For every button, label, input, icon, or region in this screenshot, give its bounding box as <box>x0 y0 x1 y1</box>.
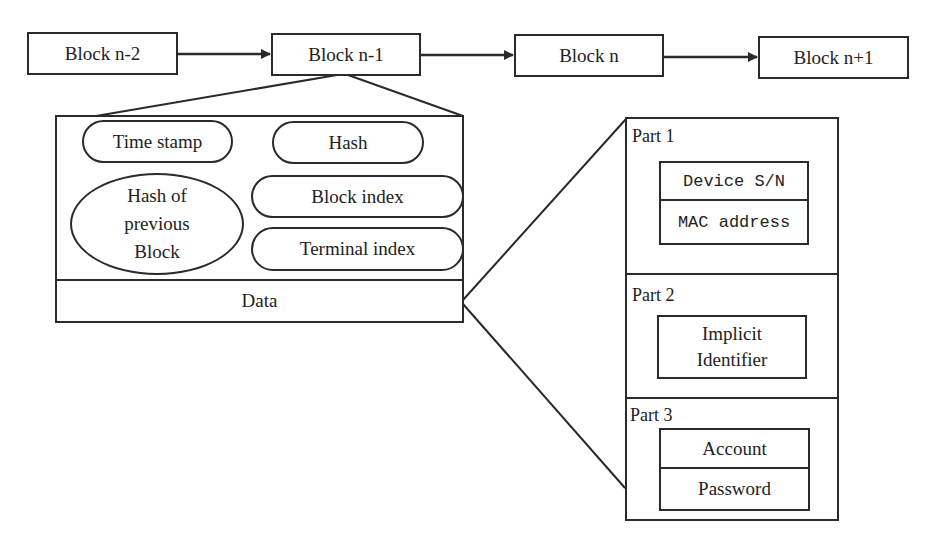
block-n-plus-1: Block n+1 <box>758 36 909 79</box>
data-section: Data <box>57 281 462 321</box>
field-label: Terminal index <box>300 238 415 260</box>
block-n-minus-2: Block n-2 <box>27 32 178 75</box>
mac-address: MAC address <box>661 201 807 243</box>
block-label: Block n-1 <box>308 44 383 66</box>
field-label-line: previous <box>124 210 189 238</box>
field-label: Hash <box>328 132 367 154</box>
block-n-minus-1: Block n-1 <box>271 33 421 76</box>
part-2-label: Part 2 <box>632 285 675 306</box>
implicit-identifier: Implicit Identifier <box>657 315 807 379</box>
block-label: Block n <box>559 45 619 67</box>
field-label: Block index <box>311 186 403 208</box>
block-n: Block n <box>514 34 664 77</box>
field-hash-of-previous-block: Hash of previous Block <box>70 173 244 275</box>
field-hash: Hash <box>272 121 424 164</box>
field-time-stamp: Time stamp <box>82 120 233 163</box>
password: Password <box>661 469 808 509</box>
part-1-label: Part 1 <box>632 126 675 147</box>
data-label: Data <box>242 290 278 312</box>
divider <box>625 273 839 275</box>
field-terminal-index: Terminal index <box>251 227 464 271</box>
block-label: Block n-2 <box>65 43 140 65</box>
account: Account <box>661 430 808 467</box>
divider <box>625 397 839 399</box>
field-label-line: Hash of <box>127 182 187 210</box>
item-label-line: Implicit <box>702 321 762 347</box>
device-sn: Device S/N <box>661 163 807 199</box>
field-block-index: Block index <box>251 175 464 218</box>
block-label: Block n+1 <box>794 47 874 69</box>
field-label-line: Block <box>134 238 179 266</box>
item-label-line: Identifier <box>697 347 768 373</box>
field-label: Time stamp <box>113 131 203 153</box>
part-3-label: Part 3 <box>630 405 673 426</box>
